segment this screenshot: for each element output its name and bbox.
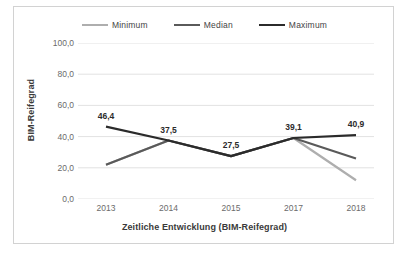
series-line-median (106, 138, 356, 165)
series-line-minimum (106, 138, 356, 180)
series-lines (106, 127, 356, 181)
y-axis-tick-labels: 100,080,060,040,020,00,0 (24, 43, 74, 199)
plot-area (78, 43, 374, 199)
x-axis-tick-label: 2014 (159, 203, 178, 213)
x-axis-tick-labels: 20132014201520172018 (78, 203, 374, 217)
plot-svg (78, 43, 374, 199)
series-line-maximum (106, 127, 356, 156)
legend-swatch-maximum (259, 24, 285, 26)
x-axis-tick-label: 2017 (284, 203, 303, 213)
legend-item-minimum[interactable]: Minimum (82, 20, 148, 30)
legend-item-median[interactable]: Median (174, 20, 233, 30)
chart-legend: Minimum Median Maximum (14, 20, 395, 30)
x-axis-tick-label: 2018 (347, 203, 366, 213)
y-axis-tick-label: 20,0 (28, 163, 74, 173)
y-axis-tick-label: 0,0 (28, 194, 74, 204)
y-axis-tick-label: 100,0 (28, 38, 74, 48)
y-axis-tick-label: 80,0 (28, 69, 74, 79)
legend-item-maximum[interactable]: Maximum (259, 20, 327, 30)
legend-label-minimum: Minimum (112, 20, 148, 30)
y-axis-tick-label: 60,0 (28, 100, 74, 110)
legend-label-maximum: Maximum (289, 20, 327, 30)
legend-swatch-median (174, 24, 200, 26)
chart-container: Minimum Median Maximum BIM-Reifegrad 100… (13, 6, 394, 244)
gridlines (78, 43, 374, 199)
x-axis-tick-label: 2015 (222, 203, 241, 213)
x-axis-title: Zeitliche Entwicklung (BIM-Reifegrad) (14, 222, 395, 232)
x-axis-tick-label: 2013 (97, 203, 116, 213)
y-axis-tick-label: 40,0 (28, 132, 74, 142)
legend-label-median: Median (204, 20, 233, 30)
legend-swatch-minimum (82, 24, 108, 26)
